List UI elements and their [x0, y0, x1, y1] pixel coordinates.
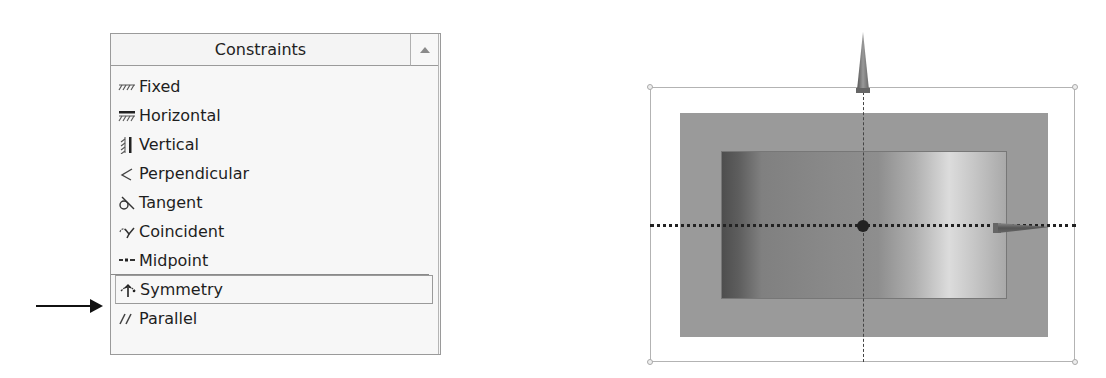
constraint-item-perpendicular[interactable]: Perpendicular	[111, 159, 437, 188]
constraints-panel: Constraints Fixed Horizontal Vertical	[110, 33, 441, 355]
x-axis-arrow-icon[interactable]	[992, 220, 1052, 239]
constraint-label: Tangent	[139, 193, 202, 212]
constraint-label: Parallel	[139, 309, 197, 328]
panel-title: Constraints	[215, 40, 306, 59]
scroll-up-button[interactable]	[411, 34, 438, 66]
triangle-up-icon	[420, 47, 430, 53]
constraint-label: Coincident	[139, 222, 224, 241]
constraint-item-fixed[interactable]: Fixed	[111, 72, 437, 101]
pointer-arrow-shaft	[36, 305, 92, 307]
constraint-label: Midpoint	[139, 251, 208, 270]
y-axis-arrow-icon[interactable]	[855, 32, 871, 98]
constraint-label: Symmetry	[140, 280, 223, 299]
constraint-item-parallel[interactable]: Parallel	[111, 304, 437, 333]
horizontal-icon	[117, 107, 137, 125]
resize-handle-bottom-right[interactable]	[1072, 359, 1078, 365]
constraint-item-tangent[interactable]: Tangent	[111, 188, 437, 217]
constraint-item-symmetry[interactable]: Symmetry	[115, 275, 433, 304]
pointer-arrow-icon	[90, 299, 103, 313]
constraint-item-coincident[interactable]: Coincident	[111, 217, 437, 246]
vertical-icon	[117, 136, 137, 154]
fixed-icon	[117, 78, 137, 96]
resize-handle-bottom-left[interactable]	[647, 359, 653, 365]
tangent-icon	[117, 194, 137, 212]
midpoint-icon	[117, 251, 137, 269]
panel-header: Constraints	[111, 34, 411, 66]
constraint-label: Vertical	[139, 135, 199, 154]
panel-scrollbar-track[interactable]	[438, 34, 439, 354]
constraints-list: Fixed Horizontal Vertical Perpendicular …	[111, 72, 437, 333]
constraint-label: Perpendicular	[139, 164, 249, 183]
constraint-item-midpoint[interactable]: Midpoint	[111, 246, 429, 275]
perpendicular-icon	[117, 165, 137, 183]
parallel-icon	[117, 310, 137, 328]
resize-handle-top-right[interactable]	[1072, 84, 1078, 90]
origin-point-icon[interactable]	[857, 220, 869, 232]
resize-handle-top-left[interactable]	[647, 84, 653, 90]
symmetry-icon	[118, 281, 138, 299]
constraint-item-horizontal[interactable]: Horizontal	[111, 101, 437, 130]
constraint-item-vertical[interactable]: Vertical	[111, 130, 437, 159]
constraint-label: Fixed	[139, 77, 180, 96]
coincident-icon	[117, 223, 137, 241]
constraint-label: Horizontal	[139, 106, 221, 125]
